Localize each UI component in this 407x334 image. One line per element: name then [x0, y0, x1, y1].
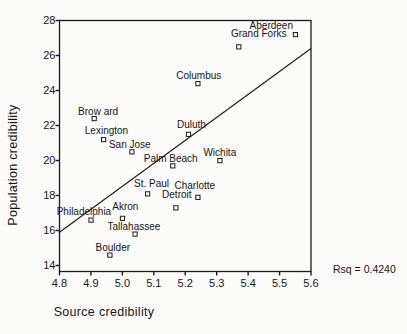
data-point-marker: [237, 45, 241, 49]
data-point-marker: [196, 195, 200, 199]
point-label: Lexington: [85, 124, 128, 135]
y-tick-label: 18: [30, 189, 56, 201]
data-point-marker: [293, 33, 297, 37]
x-tick-label: 4.9: [83, 277, 98, 289]
data-point-marker: [133, 232, 137, 236]
y-tick-label: 24: [30, 84, 56, 96]
plot-frame: [60, 21, 312, 272]
data-point-marker: [102, 138, 106, 142]
data-point-marker: [196, 82, 200, 86]
x-axis-title: Source credibility: [54, 305, 155, 319]
data-point-marker: [146, 192, 150, 196]
x-tick-label: 5.2: [178, 277, 193, 289]
x-tick-label: 4.8: [52, 277, 67, 289]
y-tick-label: 14: [30, 259, 56, 271]
y-tick-label: 16: [30, 224, 56, 236]
point-label: Tallahassee: [108, 221, 161, 232]
point-label: Akron: [112, 201, 138, 212]
x-tick-label: 5.1: [146, 277, 161, 289]
point-label: Brow ard: [78, 105, 118, 116]
y-tick-label: 28: [30, 14, 56, 26]
y-tick-label: 26: [30, 49, 56, 61]
x-tick-label: 5.4: [240, 277, 255, 289]
data-point-marker: [108, 253, 112, 257]
y-tick-label: 20: [30, 154, 56, 166]
x-tick-label: 5.6: [303, 277, 318, 289]
y-tick-label: 22: [30, 119, 56, 131]
point-label: Boulder: [96, 242, 130, 253]
rsq-annotation: Rsq = 0.4240: [333, 263, 396, 275]
point-label: St. Paul: [134, 177, 169, 188]
data-point-marker: [171, 164, 175, 168]
x-tick-label: 5.3: [209, 277, 224, 289]
point-label: Detroit: [162, 188, 191, 199]
point-label: Duluth: [177, 119, 206, 130]
point-label: Philadelphia: [57, 206, 112, 217]
point-label: Wichita: [203, 146, 236, 157]
point-label: Columbus: [176, 69, 221, 80]
point-label: San Jose: [109, 138, 151, 149]
x-tick-label: 5.0: [115, 277, 130, 289]
point-label: Grand Forks: [231, 27, 287, 38]
point-label: Palm Beach: [144, 152, 198, 163]
data-point-marker: [186, 132, 190, 136]
data-point-marker: [92, 117, 96, 121]
scatter-figure: 4.84.95.05.15.25.35.45.55.61416182022242…: [0, 0, 407, 334]
data-point-marker: [130, 150, 134, 154]
data-point-marker: [218, 159, 222, 163]
y-axis-title: Population credibility: [6, 104, 20, 225]
data-point-marker: [174, 206, 178, 210]
x-tick-label: 5.5: [272, 277, 287, 289]
data-point-marker: [89, 218, 93, 222]
